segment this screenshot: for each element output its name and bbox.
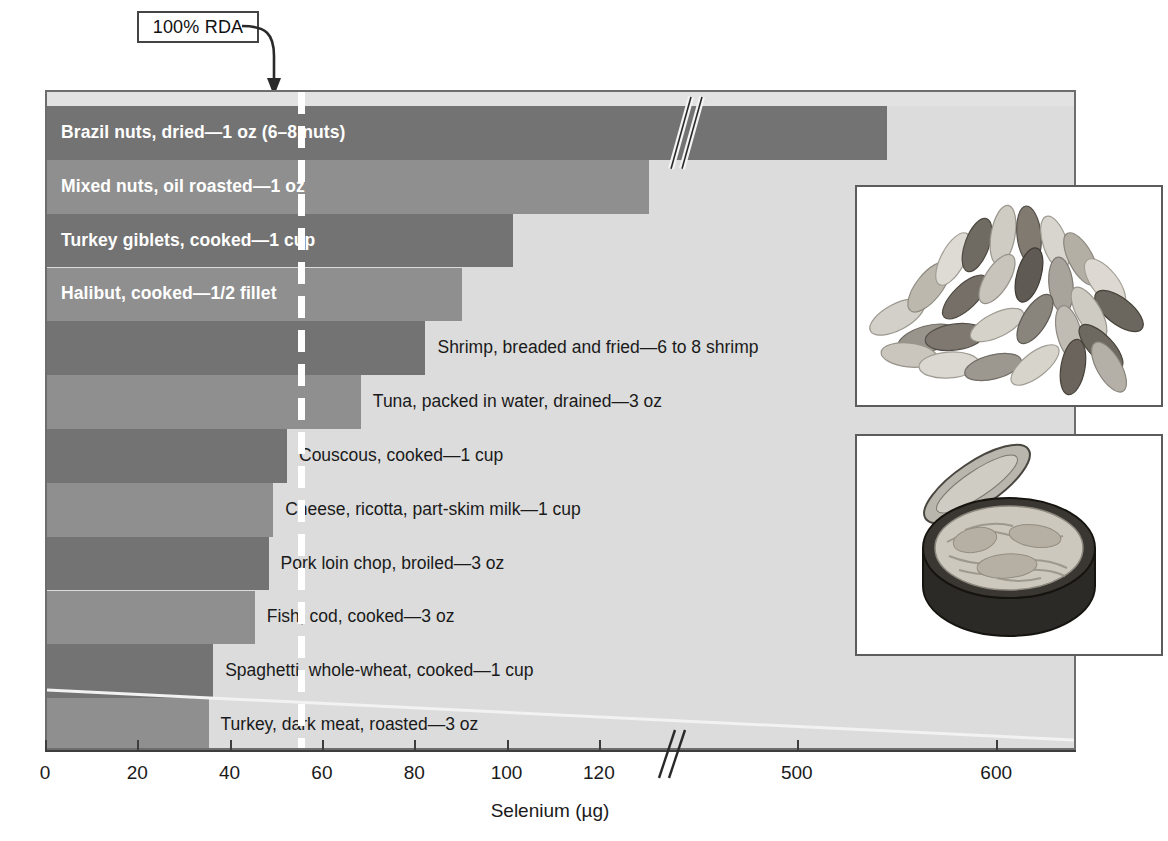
x-tick-label-500: 500	[781, 762, 813, 784]
bar-label-10: Fish, cod, cooked—3 oz	[267, 608, 455, 626]
x-tick-label-20: 20	[127, 762, 148, 784]
x-tick-80	[414, 740, 416, 750]
bar-label-7: Couscous, cooked—1 cup	[299, 447, 503, 465]
bar-10	[47, 591, 255, 645]
x-axis	[45, 750, 1076, 752]
plot-top-band	[47, 92, 1074, 106]
x-tick-120	[599, 740, 601, 750]
rda-callout-box: 100% RDA	[137, 11, 259, 43]
x-tick-label-0: 0	[40, 762, 51, 784]
bar-label-6: Tuna, packed in water, drained—3 oz	[373, 393, 662, 411]
brazil-nuts-illustration	[857, 187, 1161, 405]
bar-5	[47, 321, 425, 375]
rda-callout-label: 100% RDA	[153, 17, 244, 38]
bar-7	[47, 429, 287, 483]
bar-11	[47, 644, 213, 698]
x-tick-600	[996, 740, 998, 750]
bar-label-3: Turkey giblets, cooked—1 cup	[61, 232, 315, 250]
x-tick-label-80: 80	[404, 762, 425, 784]
canned-tuna-illustration	[857, 436, 1161, 654]
x-tick-label-120: 120	[583, 762, 615, 784]
bar-label-12: Turkey, dark meat, roasted—3 oz	[221, 716, 479, 734]
bar-9	[47, 537, 269, 591]
x-tick-500	[797, 740, 799, 750]
x-tick-60	[322, 740, 324, 750]
bar-6	[47, 375, 361, 429]
canned-tuna-photo	[855, 434, 1163, 656]
x-tick-label-40: 40	[219, 762, 240, 784]
x-tick-label-600: 600	[980, 762, 1012, 784]
x-tick-label-60: 60	[311, 762, 332, 784]
bar-label-2: Mixed nuts, oil roasted—1 oz	[61, 178, 305, 196]
bar-label-9: Pork loin chop, broiled—3 oz	[281, 555, 505, 573]
x-tick-20	[137, 740, 139, 750]
bar-label-8: Cheese, ricotta, part-skim milk—1 cup	[285, 501, 581, 519]
rda-reference-line	[298, 92, 305, 748]
bar-label-4: Halibut, cooked—1/2 fillet	[61, 285, 277, 303]
x-tick-40	[230, 740, 232, 750]
bar-label-5: Shrimp, breaded and fried—6 to 8 shrimp	[437, 339, 758, 357]
x-tick-0	[45, 740, 47, 750]
x-tick-label-100: 100	[491, 762, 523, 784]
x-axis-title: Selenium (µg)	[0, 800, 1100, 822]
brazil-nuts-photo	[855, 185, 1163, 407]
x-tick-100	[507, 740, 509, 750]
bar-12	[47, 698, 209, 750]
bar-label-11: Spaghetti, whole-wheat, cooked—1 cup	[225, 662, 533, 680]
bar-8	[47, 483, 273, 537]
